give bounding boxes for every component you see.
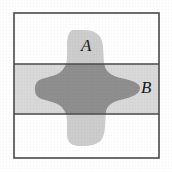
venn-diagram-figure: A B (0, 0, 172, 172)
set-label-B: B (141, 79, 151, 96)
set-label-A: A (81, 37, 91, 54)
